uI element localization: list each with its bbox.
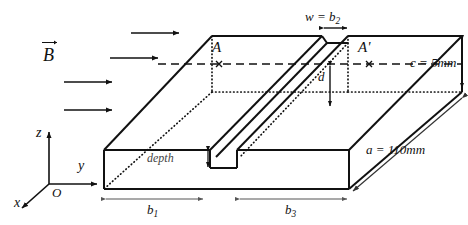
dimension-label-d: d — [318, 70, 325, 83]
axis-label-x: x — [14, 196, 20, 210]
dimension-label-depth: depth — [147, 152, 174, 164]
section-label-A: A — [212, 40, 221, 55]
hidden-groove-floor-right-rail — [240, 43, 348, 157]
dimension-label-c: c = 5mm — [410, 56, 456, 69]
section-label-A-prime: A' — [358, 40, 370, 55]
b-field-arrows — [64, 33, 179, 110]
hidden-back-left-slant — [104, 92, 212, 189]
axis-label-z: z — [36, 126, 41, 140]
dimension-label-a: a = 110mm — [366, 143, 425, 156]
axis-origin-label: O — [52, 186, 61, 199]
slab-solid-edges — [104, 36, 462, 189]
groove-left-top-rail — [210, 36, 322, 150]
diagram-svg — [0, 0, 468, 225]
right-bottom-slant-edge — [349, 92, 462, 189]
dimension-label-b1: b1 — [147, 203, 158, 219]
x-axis — [22, 184, 49, 208]
b-field-label: B — [43, 46, 54, 64]
top-edge-left-slant — [104, 36, 212, 150]
groove-right-top-rail — [237, 36, 348, 150]
hidden-edges — [104, 36, 462, 189]
axis-label-y: y — [78, 159, 84, 173]
dimension-label-w: w = b2 — [305, 10, 340, 26]
figure-canvas: B z y x O A A' w = b2 c = 5mm d a = 110m… — [0, 0, 468, 225]
b-field-symbol: B — [43, 46, 54, 64]
groove-left-inner-rail — [216, 43, 327, 157]
dimension-label-b3: b3 — [285, 203, 296, 219]
